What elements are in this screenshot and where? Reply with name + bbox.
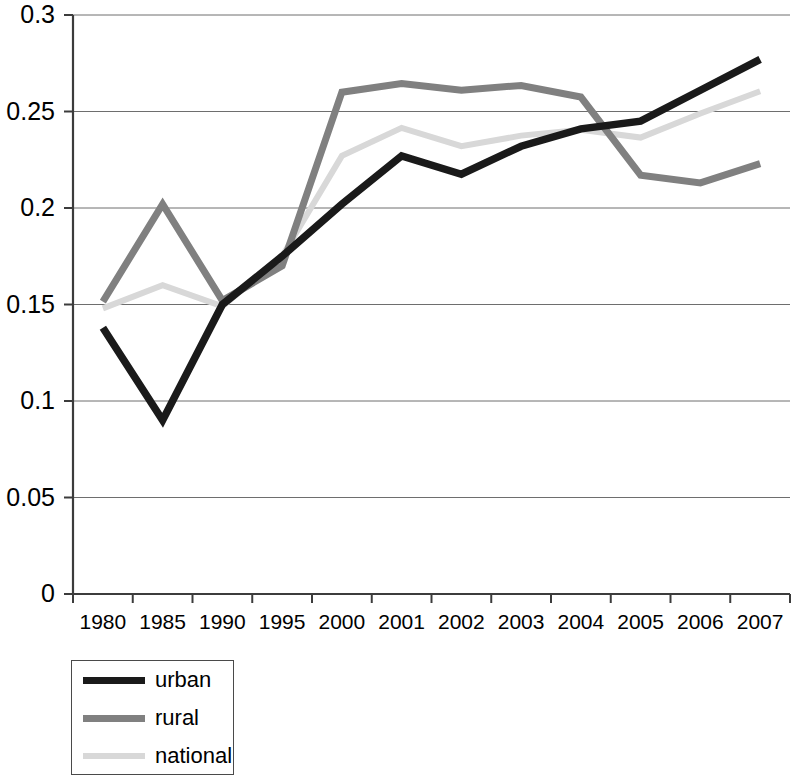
legend-swatch-national <box>83 753 145 759</box>
series-line-national <box>103 91 760 308</box>
chart-legend: urban rural national <box>71 660 234 775</box>
line-chart: 00.050.10.150.20.250.3 19801985199019952… <box>0 0 803 780</box>
series-line-rural <box>103 84 760 302</box>
data-series-lines <box>103 59 760 420</box>
legend-swatch-urban <box>83 677 145 684</box>
x-axis-tick-label: 2003 <box>491 611 551 632</box>
legend-label-national: national <box>155 745 232 767</box>
x-axis-tick-label: 2002 <box>432 611 492 632</box>
x-axis-tick-label: 1980 <box>73 611 133 632</box>
x-axis-tick-label: 1985 <box>133 611 193 632</box>
x-axis-ticks <box>73 594 790 603</box>
legend-label-urban: urban <box>155 669 211 691</box>
x-axis-tick-label: 2001 <box>372 611 432 632</box>
x-axis-tick-label: 2004 <box>551 611 611 632</box>
x-axis-tick-label: 2007 <box>730 611 790 632</box>
legend-item-national: national <box>72 737 233 775</box>
legend-label-rural: rural <box>155 707 199 729</box>
x-axis-tick-label: 1990 <box>193 611 253 632</box>
x-axis-tick-label: 1995 <box>252 611 312 632</box>
legend-item-rural: rural <box>72 699 233 737</box>
x-axis-tick-label: 2006 <box>671 611 731 632</box>
legend-swatch-rural <box>83 715 145 722</box>
series-line-urban <box>103 59 760 420</box>
y-axis-ticks <box>64 15 73 594</box>
x-axis-tick-label: 2000 <box>312 611 372 632</box>
x-axis-tick-label: 2005 <box>611 611 671 632</box>
legend-item-urban: urban <box>72 661 233 699</box>
